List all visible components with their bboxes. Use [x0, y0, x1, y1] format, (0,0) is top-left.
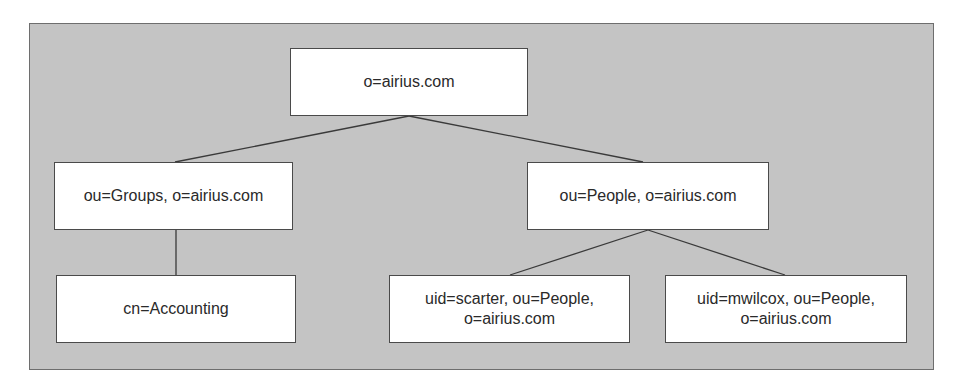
node-scarter-label-line1: uid=scarter, ou=People, — [425, 289, 594, 309]
node-scarter: uid=scarter, ou=People, o=airius.com — [389, 275, 630, 343]
node-mwilcox-label-line1: uid=mwilcox, ou=People, — [697, 289, 875, 309]
node-people-label: ou=People, o=airius.com — [560, 186, 737, 206]
node-groups-label: ou=Groups, o=airius.com — [84, 186, 264, 206]
node-mwilcox: uid=mwilcox, ou=People, o=airius.com — [665, 275, 907, 343]
node-root-label: o=airius.com — [363, 72, 454, 92]
node-accounting: cn=Accounting — [56, 275, 296, 343]
node-root: o=airius.com — [290, 48, 528, 116]
node-accounting-label: cn=Accounting — [123, 299, 228, 319]
node-mwilcox-label-line2: o=airius.com — [740, 309, 831, 329]
node-people: ou=People, o=airius.com — [527, 162, 769, 230]
node-groups: ou=Groups, o=airius.com — [54, 162, 293, 230]
node-scarter-label-line2: o=airius.com — [464, 309, 555, 329]
